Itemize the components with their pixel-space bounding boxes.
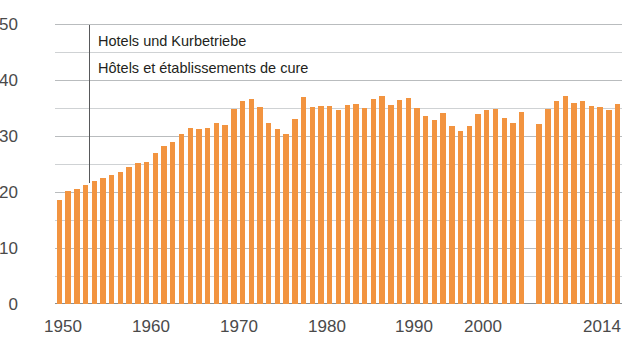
bar <box>519 112 524 304</box>
bar <box>397 100 402 304</box>
x-tick-label-2014: 2014 <box>583 318 621 335</box>
annotation-label-de: Hotels und Kurbetriebe <box>98 34 246 49</box>
bar <box>467 126 472 304</box>
x-tick-label-1990: 1990 <box>395 318 433 335</box>
bar <box>240 101 245 304</box>
bar <box>179 134 184 304</box>
bar <box>440 113 445 304</box>
y-tick-label-10: 10 <box>0 240 18 257</box>
bar <box>249 99 254 304</box>
x-tick-label-1950: 1950 <box>44 318 82 335</box>
bar <box>554 101 559 304</box>
bar <box>65 191 70 304</box>
bar <box>205 128 210 304</box>
x-tick-label-1970: 1970 <box>220 318 258 335</box>
bar <box>353 104 358 304</box>
bar <box>449 126 454 304</box>
bar <box>283 134 288 304</box>
bar <box>196 129 201 304</box>
bar <box>257 107 262 304</box>
bar <box>432 120 437 304</box>
bar <box>589 106 594 304</box>
bar <box>92 181 97 304</box>
bar <box>144 162 149 304</box>
bar <box>371 99 376 304</box>
annotation-leader-line <box>89 25 90 183</box>
bar <box>563 96 568 304</box>
bar <box>310 107 315 304</box>
bar <box>214 123 219 304</box>
bar <box>100 178 105 304</box>
x-tick-label-1980: 1980 <box>308 318 346 335</box>
bar <box>545 109 550 304</box>
annotation-label-fr: Hôtels et établissements de cure <box>98 61 308 76</box>
bar <box>292 119 297 304</box>
bar <box>222 125 227 304</box>
bar <box>266 123 271 304</box>
bar <box>571 103 576 304</box>
bar <box>580 101 585 304</box>
bar <box>414 108 419 304</box>
y-tick-label-30: 30 <box>0 128 18 145</box>
bar <box>423 116 428 304</box>
bar <box>388 105 393 304</box>
bar <box>510 123 515 304</box>
bar <box>502 118 507 304</box>
bar <box>57 200 62 304</box>
bar <box>597 107 602 304</box>
bar <box>379 96 384 304</box>
bar <box>161 146 166 304</box>
bar <box>118 172 123 304</box>
bar <box>606 110 611 304</box>
y-tick-label-40: 40 <box>0 72 18 89</box>
bar <box>170 142 175 304</box>
bar <box>345 105 350 304</box>
bar <box>475 114 480 304</box>
bar <box>188 128 193 304</box>
bar <box>74 189 79 304</box>
x-tick-label-1960: 1960 <box>132 318 170 335</box>
bar <box>536 124 541 304</box>
bar <box>406 98 411 304</box>
bar <box>318 106 323 304</box>
bar <box>484 110 489 304</box>
bar <box>615 104 620 304</box>
bar <box>153 153 158 304</box>
bar <box>275 129 280 304</box>
x-tick-label-2000: 2000 <box>464 318 502 335</box>
bar <box>135 163 140 304</box>
bar <box>458 131 463 304</box>
bar <box>336 110 341 304</box>
y-tick-label-50: 50 <box>0 16 18 33</box>
y-tick-label-20: 20 <box>0 184 18 201</box>
bar <box>231 109 236 304</box>
bar <box>362 108 367 304</box>
bar <box>109 175 114 304</box>
bar <box>301 97 306 304</box>
bar-chart: 50 40 30 20 10 0 Hotels und Kurbetriebe … <box>0 0 630 358</box>
bar <box>126 167 131 304</box>
bar <box>83 185 88 304</box>
y-tick-label-0: 0 <box>0 296 18 313</box>
bar <box>327 106 332 304</box>
bar <box>493 109 498 304</box>
